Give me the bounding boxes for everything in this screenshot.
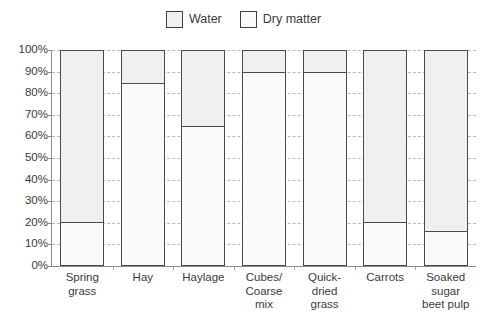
bar-column[interactable] — [121, 44, 165, 266]
y-axis-tick-mark — [48, 72, 51, 73]
y-axis-tick-mark — [48, 180, 51, 181]
bar-segment-dry-matter[interactable] — [243, 72, 285, 265]
y-axis-tick-mark — [48, 93, 51, 94]
x-axis-category-labels: SpringgrassHayHaylageCubes/CoarsemixQuic… — [52, 271, 476, 329]
y-axis-tick-label: 90% — [2, 66, 48, 78]
x-axis-line — [51, 266, 476, 267]
bar-stack[interactable] — [363, 50, 407, 266]
bar-segment-dry-matter[interactable] — [122, 83, 164, 265]
bar-segment-dry-matter[interactable] — [61, 222, 103, 265]
x-axis-category-label: Haylage — [173, 271, 234, 285]
y-axis-tick-label: 60% — [2, 131, 48, 143]
bar-segment-water[interactable] — [364, 51, 406, 222]
legend-label-dry-matter: Dry matter — [263, 13, 321, 26]
bar-segment-dry-matter[interactable] — [425, 231, 467, 265]
x-axis-category-label: Hay — [113, 271, 174, 285]
bar-stack[interactable] — [60, 50, 104, 266]
bar-stack[interactable] — [424, 50, 468, 266]
y-axis-tick-mark — [48, 266, 51, 267]
x-axis-tick-mark — [355, 267, 356, 270]
bar-segment-water[interactable] — [304, 51, 346, 72]
bar-segment-water[interactable] — [61, 51, 103, 222]
y-axis-tick-label: 70% — [2, 109, 48, 121]
bar-stack[interactable] — [242, 50, 286, 266]
y-axis-tick-label: 10% — [2, 239, 48, 251]
y-axis-tick-mark — [48, 158, 51, 159]
bar-segment-water[interactable] — [182, 51, 224, 126]
y-axis-tick-label: 50% — [2, 152, 48, 164]
y-axis-tick-mark — [48, 223, 51, 224]
x-axis-tick-mark — [415, 267, 416, 270]
x-axis-category-label: Cubes/Coarsemix — [234, 271, 295, 312]
bar-segment-dry-matter[interactable] — [182, 126, 224, 265]
bar-segment-dry-matter[interactable] — [304, 72, 346, 265]
y-axis-tick-labels: 0%10%20%30%40%50%60%70%80%90%100% — [0, 44, 48, 266]
chart-plot-area: 0%10%20%30%40%50%60%70%80%90%100% Spring… — [0, 44, 487, 329]
y-axis-tick-mark — [48, 50, 51, 51]
legend-swatch-water — [166, 11, 183, 28]
bar-stack[interactable] — [121, 50, 165, 266]
x-axis-tick-mark — [294, 267, 295, 270]
x-axis-category-label: Springgrass — [52, 271, 113, 298]
y-axis-tick-label: 80% — [2, 87, 48, 99]
chart-legend: Water Dry matter — [0, 11, 487, 28]
x-axis-tick-mark — [173, 267, 174, 270]
y-axis-tick-mark — [48, 136, 51, 137]
x-axis-category-label: Quick-driedgrass — [294, 271, 355, 312]
legend-label-water: Water — [189, 13, 222, 26]
bar-segment-water[interactable] — [243, 51, 285, 72]
bar-column[interactable] — [60, 44, 104, 266]
x-axis-category-label: Soakedsugarbeet pulp — [415, 271, 476, 312]
legend-item-water: Water — [166, 11, 222, 28]
y-axis-tick-label: 30% — [2, 195, 48, 207]
bar-segment-water[interactable] — [425, 51, 467, 231]
bar-column[interactable] — [303, 44, 347, 266]
x-axis-tick-mark — [113, 267, 114, 270]
bar-stack[interactable] — [303, 50, 347, 266]
legend-swatch-dry-matter — [240, 11, 257, 28]
y-axis-tick-label: 40% — [2, 174, 48, 186]
chart-bars — [52, 44, 476, 266]
y-axis-tick-mark — [48, 115, 51, 116]
bar-column[interactable] — [363, 44, 407, 266]
bar-segment-water[interactable] — [122, 51, 164, 83]
legend-item-dry-matter: Dry matter — [240, 11, 321, 28]
y-axis-tick-label: 0% — [2, 260, 48, 272]
x-axis-category-label: Carrots — [355, 271, 416, 285]
bar-column[interactable] — [181, 44, 225, 266]
bar-column[interactable] — [242, 44, 286, 266]
y-axis-tick-mark — [48, 201, 51, 202]
y-axis-tick-label: 100% — [2, 44, 48, 56]
x-axis-tick-mark — [234, 267, 235, 270]
y-axis-tick-mark — [48, 244, 51, 245]
y-axis-tick-label: 20% — [2, 217, 48, 229]
bar-column[interactable] — [424, 44, 468, 266]
bar-segment-dry-matter[interactable] — [364, 222, 406, 265]
bar-stack[interactable] — [181, 50, 225, 266]
